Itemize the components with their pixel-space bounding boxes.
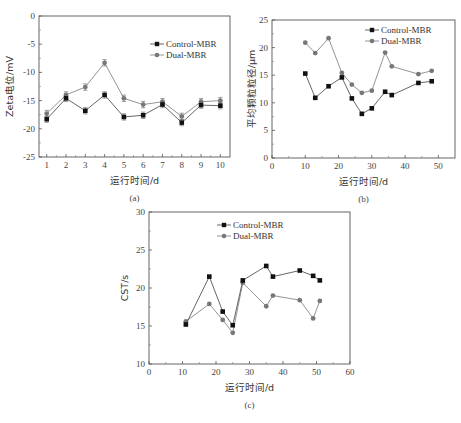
square-marker-icon bbox=[222, 223, 226, 227]
y-axis-title: CST/s bbox=[119, 275, 130, 302]
figure-canvas: 123456789100-5-10-15-20-25运行时间/dZeta电位/m… bbox=[0, 0, 461, 423]
square-marker-icon bbox=[303, 71, 308, 76]
circle-marker-icon bbox=[383, 50, 388, 55]
x-axis-title: 运行时间/d bbox=[225, 382, 274, 393]
series-line-dual-mbr bbox=[47, 63, 221, 117]
x-tick-label: 20 bbox=[212, 367, 222, 377]
x-tick-label: 50 bbox=[434, 161, 444, 171]
square-marker-icon bbox=[122, 115, 127, 120]
square-marker-icon bbox=[429, 79, 434, 84]
series-line-control-mbr bbox=[47, 95, 221, 123]
square-marker-icon bbox=[416, 81, 421, 86]
panel-label: (b) bbox=[358, 194, 369, 204]
y-tick-label: 20 bbox=[136, 283, 146, 293]
x-tick-label: 40 bbox=[401, 161, 411, 171]
square-marker-icon bbox=[83, 108, 88, 113]
square-marker-icon bbox=[102, 93, 107, 98]
x-tick-label: 30 bbox=[367, 161, 377, 171]
legend: Control-MBRDual-MBR bbox=[150, 39, 217, 60]
circle-marker-icon bbox=[297, 298, 302, 303]
circle-marker-icon bbox=[179, 114, 184, 119]
circle-marker-icon bbox=[155, 53, 160, 58]
legend-label: Dual-MBR bbox=[166, 50, 207, 60]
plot-frame bbox=[39, 16, 230, 157]
square-marker-icon bbox=[241, 278, 246, 283]
y-tick-label: 15 bbox=[259, 70, 269, 80]
square-marker-icon bbox=[141, 113, 146, 118]
series-line-control-mbr bbox=[305, 74, 431, 114]
x-tick-label: 7 bbox=[160, 160, 165, 170]
y-tick-label: 25 bbox=[136, 245, 146, 255]
circle-marker-icon bbox=[313, 51, 318, 56]
x-tick-label: 1 bbox=[44, 160, 49, 170]
square-marker-icon bbox=[160, 102, 165, 107]
y-tick-label: -10 bbox=[23, 67, 35, 77]
circle-marker-icon bbox=[303, 40, 308, 45]
circle-marker-icon bbox=[416, 72, 421, 77]
x-tick-label: 50 bbox=[312, 367, 322, 377]
square-marker-icon bbox=[155, 42, 159, 46]
series-line-dual-mbr bbox=[305, 38, 431, 93]
circle-marker-icon bbox=[207, 302, 212, 307]
series-line-dual-mbr bbox=[186, 283, 320, 333]
x-tick-label: 6 bbox=[141, 160, 146, 170]
square-marker-icon bbox=[318, 278, 323, 283]
circle-marker-icon bbox=[317, 299, 322, 304]
circle-marker-icon bbox=[369, 88, 374, 93]
x-tick-label: 0 bbox=[270, 161, 275, 171]
square-marker-icon bbox=[389, 93, 394, 98]
square-marker-icon bbox=[311, 274, 316, 279]
chart-cst: 01020304050601015202530运行时间/dCST/s(c)Con… bbox=[119, 207, 355, 410]
y-axis-title: Zeta电位/mV bbox=[4, 56, 15, 117]
x-tick-label: 9 bbox=[199, 160, 204, 170]
x-tick-label: 0 bbox=[147, 367, 152, 377]
x-axis-title: 运行时间/d bbox=[110, 175, 159, 186]
circle-marker-icon bbox=[141, 102, 146, 107]
square-marker-icon bbox=[218, 103, 223, 108]
y-tick-label: 30 bbox=[136, 207, 146, 217]
y-tick-label: -20 bbox=[23, 124, 35, 134]
x-tick-label: 10 bbox=[178, 367, 188, 377]
circle-marker-icon bbox=[349, 82, 354, 87]
circle-marker-icon bbox=[370, 39, 375, 44]
circle-marker-icon bbox=[220, 318, 225, 323]
circle-marker-icon bbox=[222, 234, 227, 239]
y-tick-label: 25 bbox=[259, 15, 269, 25]
circle-marker-icon bbox=[339, 71, 344, 76]
x-tick-label: 8 bbox=[180, 160, 185, 170]
y-tick-label: 10 bbox=[136, 359, 146, 369]
x-tick-label: 20 bbox=[334, 161, 344, 171]
y-tick-label: 5 bbox=[264, 125, 269, 135]
x-axis-title: 运行时间/d bbox=[339, 176, 388, 187]
x-tick-label: 10 bbox=[301, 161, 311, 171]
y-tick-label: 10 bbox=[259, 98, 269, 108]
x-tick-label: 5 bbox=[122, 160, 127, 170]
circle-marker-icon bbox=[264, 304, 269, 309]
x-tick-label: 60 bbox=[346, 367, 356, 377]
chart-particle-size: 010203040500510152025运行时间/d平均颗粒粒径/μm(b)C… bbox=[246, 15, 455, 204]
plot-frame bbox=[272, 20, 455, 158]
legend-label: Control-MBR bbox=[381, 25, 432, 35]
y-tick-label: -15 bbox=[23, 96, 35, 106]
y-tick-label: 20 bbox=[259, 43, 269, 53]
square-marker-icon bbox=[326, 84, 331, 89]
y-tick-label: 15 bbox=[136, 321, 146, 331]
x-tick-label: 3 bbox=[83, 160, 88, 170]
x-tick-label: 40 bbox=[279, 367, 289, 377]
y-axis-title: 平均颗粒粒径/μm bbox=[246, 50, 257, 129]
square-marker-icon bbox=[297, 268, 302, 273]
circle-marker-icon bbox=[102, 60, 107, 65]
square-marker-icon bbox=[179, 120, 184, 125]
circle-marker-icon bbox=[326, 36, 331, 41]
legend-label: Dual-MBR bbox=[381, 36, 422, 46]
chart-zeta-potential: 123456789100-5-10-15-20-25运行时间/dZeta电位/m… bbox=[4, 11, 230, 203]
square-marker-icon bbox=[230, 323, 235, 328]
circle-marker-icon bbox=[121, 96, 126, 101]
panel-label: (a) bbox=[130, 193, 140, 203]
square-marker-icon bbox=[199, 103, 204, 108]
y-tick-label: 0 bbox=[264, 153, 269, 163]
square-marker-icon bbox=[383, 89, 388, 94]
square-marker-icon bbox=[44, 117, 49, 122]
square-marker-icon bbox=[350, 96, 355, 101]
square-marker-icon bbox=[370, 106, 375, 111]
